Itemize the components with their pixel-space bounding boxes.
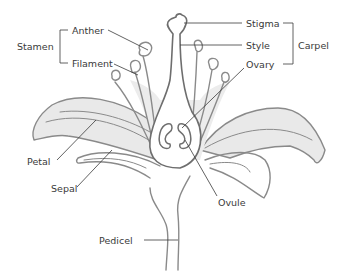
label-ovary: Ovary: [246, 59, 274, 70]
label-sepal: Sepal: [51, 183, 77, 194]
pedicel-shape: [150, 188, 168, 270]
right-petal: [200, 108, 325, 163]
label-style: Style: [246, 40, 270, 51]
label-petal: Petal: [27, 156, 50, 167]
label-ovule: Ovule: [218, 197, 246, 208]
left-petal: [33, 98, 158, 160]
label-stigma: Stigma: [246, 18, 280, 29]
label-pedicel: Pedicel: [99, 235, 133, 246]
label-anther: Anther: [72, 25, 104, 36]
label-carpel: Carpel: [298, 40, 329, 51]
anther-shape: [139, 42, 152, 56]
pistil-shape: [150, 14, 201, 168]
label-stamen: Stamen: [17, 41, 54, 52]
right-sepal: [205, 153, 270, 199]
label-filament: Filament: [72, 58, 113, 69]
